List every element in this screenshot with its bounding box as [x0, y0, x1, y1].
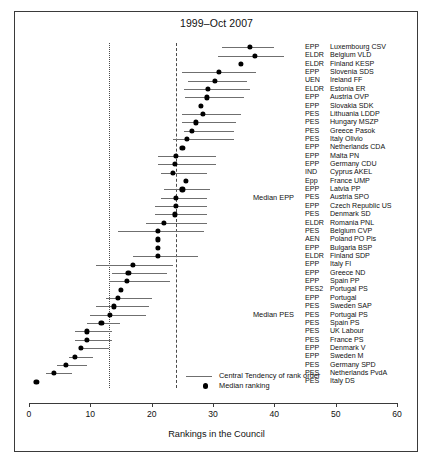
median-dot — [111, 304, 116, 309]
row-label: ELDRFinland SDP — [305, 252, 431, 260]
x-tick — [274, 403, 275, 407]
row-label: EPPSpain PP — [305, 277, 431, 285]
x-tick-label: 60 — [392, 409, 402, 419]
row-label-group: PES — [305, 227, 330, 235]
range-line — [106, 298, 152, 299]
row-label: EPPItaly FI — [305, 260, 431, 268]
row-label-name: Poland PO Pis — [330, 235, 376, 243]
row-label-group: EPP — [305, 185, 330, 193]
row-label-name: Slovenia SDS — [330, 68, 374, 76]
row-label: AENPoland PO Pis — [305, 235, 431, 243]
row-label-name: Romania PNL — [330, 219, 374, 227]
range-line — [161, 173, 207, 174]
row-label-group: EPP — [305, 277, 330, 285]
median-dot — [131, 262, 136, 267]
range-line — [57, 365, 88, 366]
row-label-name: Ireland FF — [330, 76, 362, 84]
range-line — [133, 256, 197, 257]
row-label-group: PES — [305, 127, 330, 135]
median-dot — [183, 178, 188, 183]
row-label-name: Greece ND — [330, 269, 365, 277]
row-label: EPPDenmark V — [305, 344, 431, 352]
row-label-name: Portugal PS — [330, 311, 368, 319]
row-label-group: PES — [305, 193, 330, 201]
range-line — [164, 189, 210, 190]
row-label: PESItaly DS — [305, 377, 431, 385]
median-dot — [161, 220, 166, 225]
row-label-group: ELDR — [305, 219, 330, 227]
row-label-group: ELDR — [305, 252, 330, 260]
row-label-group: ELDR — [305, 51, 330, 59]
median-dot — [125, 279, 130, 284]
median-dot — [107, 312, 112, 317]
row-label-group: UEN — [305, 76, 330, 84]
row-label: PESAustria SPO — [305, 193, 431, 201]
range-line — [158, 164, 216, 165]
range-line — [155, 214, 207, 215]
row-label-name: Hungary MSZP — [330, 118, 379, 126]
range-line — [182, 114, 240, 115]
line-swatch-icon — [186, 376, 212, 377]
row-label-group: ELDR — [305, 85, 330, 93]
row-label-name: Belgium VLD — [330, 51, 371, 59]
range-line — [161, 198, 207, 199]
range-line — [112, 273, 167, 274]
row-label-name: Italy DS — [330, 377, 355, 385]
row-label-name: Latvia PP — [330, 185, 360, 193]
row-label: EPPNetherlands CDA — [305, 143, 431, 151]
row-label-name: Denmark SD — [330, 210, 371, 218]
row-label-group: EPP — [305, 143, 330, 151]
x-tick — [397, 403, 398, 407]
row-label-name: Portugal PS — [330, 285, 368, 293]
median-dot — [79, 346, 84, 351]
median-dot — [170, 170, 175, 175]
row-label-group: EPP — [305, 102, 330, 110]
row-label: PESUK Labour — [305, 327, 431, 335]
row-label-name: Italy Olivio — [330, 135, 363, 143]
median-dot — [115, 295, 120, 300]
row-label: PESSpain PS — [305, 319, 431, 327]
median-dot — [118, 287, 123, 292]
range-line — [182, 122, 236, 123]
row-label: EPPMalta PN — [305, 152, 431, 160]
row-label: PESNetherlands PvdA — [305, 369, 431, 377]
row-label-name: Netherlands CDA — [330, 143, 385, 151]
legend-label-median-ranking: Median ranking — [219, 381, 270, 391]
x-tick-label: 10 — [86, 409, 96, 419]
row-label-name: Lithuania LDDP — [330, 110, 380, 118]
x-tick — [152, 403, 153, 407]
row-label: ELDRRomania PNL — [305, 219, 431, 227]
range-line — [146, 223, 207, 224]
range-line — [96, 306, 148, 307]
median-dot — [51, 371, 56, 376]
median-dot — [247, 45, 252, 50]
row-label-group: PES — [305, 110, 330, 118]
median-dot — [99, 320, 104, 325]
median-dot — [180, 187, 185, 192]
row-label-name: Spain PS — [330, 319, 360, 327]
row-label-group: PES — [305, 336, 330, 344]
row-label-name: Greece Pasok — [330, 127, 375, 135]
range-line — [75, 331, 112, 332]
row-label: PESItaly Olivio — [305, 135, 431, 143]
median-dot — [174, 203, 179, 208]
row-label: PESGermany SPD — [305, 361, 431, 369]
annotation-median-epp: Median EPP — [214, 193, 294, 202]
median-dot — [193, 120, 198, 125]
row-label-name: Malta PN — [330, 152, 359, 160]
x-tick — [336, 403, 337, 407]
x-tick — [213, 403, 214, 407]
median-dot — [85, 329, 90, 334]
row-label: PESFrance PS — [305, 336, 431, 344]
median-dot — [126, 270, 131, 275]
median-dot — [200, 111, 205, 116]
row-label-group: PES — [305, 311, 330, 319]
median-dot — [185, 137, 190, 142]
range-line — [81, 348, 109, 349]
median-dot — [85, 337, 90, 342]
row-label: EPPAustria OVP — [305, 93, 431, 101]
row-label-group: EPP — [305, 152, 330, 160]
median-dot — [204, 95, 209, 100]
row-label: EPPGermany CDU — [305, 160, 431, 168]
median-dot — [238, 61, 243, 66]
